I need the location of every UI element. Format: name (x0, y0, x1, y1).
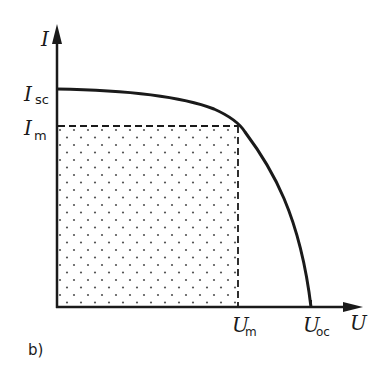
im-label: I (23, 116, 33, 140)
iv-characteristic-diagram: I I sc I m U m U oc U b) (0, 0, 379, 372)
y-axis-arrow-icon (52, 24, 62, 44)
panel-label: b) (28, 341, 43, 359)
uoc-label-sub: oc (316, 325, 330, 339)
isc-label: I (23, 82, 33, 106)
x-axis-label: U (350, 311, 368, 335)
max-power-area-fill (58, 127, 238, 307)
im-label-sub: m (34, 128, 47, 143)
isc-label-sub: sc (35, 92, 49, 107)
um-label-sub: m (245, 325, 257, 339)
y-axis-label: I (40, 27, 50, 51)
